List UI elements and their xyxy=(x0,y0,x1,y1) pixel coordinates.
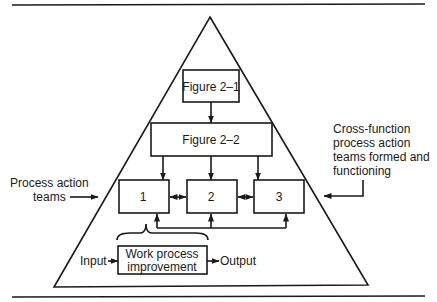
brace xyxy=(117,224,208,240)
output-label: Output xyxy=(220,254,257,268)
left-annotation-line2: teams xyxy=(33,190,66,204)
work-process-label-line1: Work process xyxy=(125,247,198,261)
input-label: Input xyxy=(80,254,107,268)
team-1-label: 1 xyxy=(140,190,147,204)
right-annotation-line2: process action xyxy=(333,136,410,150)
top-rule xyxy=(12,4,425,5)
figure-2-2-label: Figure 2–2 xyxy=(182,133,240,147)
bottom-rule xyxy=(12,296,425,297)
right-annotation-line3: teams formed and xyxy=(333,150,430,164)
right-annotation-line1: Cross-function xyxy=(333,122,410,136)
team-2-label: 2 xyxy=(208,190,215,204)
diagram-canvas: Figure 2–1 Figure 2–2 1 2 3 Work process… xyxy=(0,0,437,302)
left-annotation-line1: Process action xyxy=(10,176,89,190)
team-3-label: 3 xyxy=(276,190,283,204)
work-process-label-line2: improvement xyxy=(127,260,197,274)
figure-2-1-label: Figure 2–1 xyxy=(182,80,240,94)
right-annotation-line4: functioning xyxy=(333,164,391,178)
right-annotation-arrow xyxy=(324,180,363,196)
